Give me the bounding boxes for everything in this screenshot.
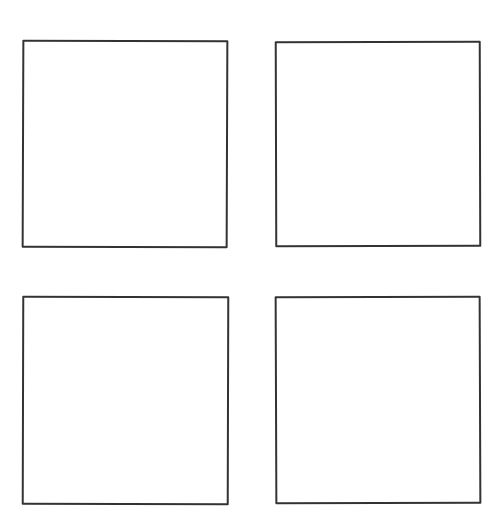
subplot-bottom-left xyxy=(22,296,230,506)
subplot-bottom-right xyxy=(275,296,482,505)
subplot-top-left xyxy=(22,40,229,249)
subplot-top-right xyxy=(275,41,482,248)
